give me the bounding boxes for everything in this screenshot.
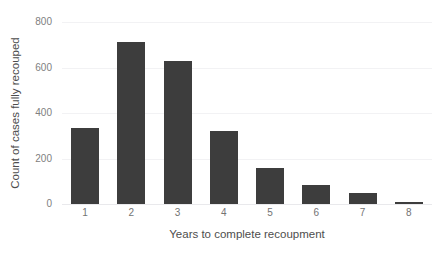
bar[interactable]	[71, 128, 99, 204]
plot-area: 0200400600800 12345678	[62, 22, 432, 204]
bar-series	[62, 22, 432, 204]
bar-slot	[247, 22, 293, 204]
bar-slot	[293, 22, 339, 204]
y-axis-tick-label: 400	[12, 108, 52, 118]
bar-slot	[155, 22, 201, 204]
y-axis-tick-label: 600	[12, 63, 52, 73]
x-axis-tick-label: 8	[389, 208, 429, 218]
bar-slot	[108, 22, 154, 204]
x-axis-tick-label: 1	[65, 208, 105, 218]
x-axis-tick-label: 6	[296, 208, 336, 218]
y-axis-tick-label: 800	[12, 17, 52, 27]
x-axis-title: Years to complete recoupment	[62, 228, 432, 240]
bar[interactable]	[349, 193, 377, 204]
x-axis-tick-label: 4	[204, 208, 244, 218]
y-axis-tick-label: 200	[12, 154, 52, 164]
bar[interactable]	[210, 131, 238, 204]
bar[interactable]	[302, 185, 330, 204]
bar[interactable]	[256, 168, 284, 204]
bar[interactable]	[395, 202, 423, 204]
bar-slot	[62, 22, 108, 204]
bar[interactable]	[117, 42, 145, 204]
x-axis-tick-label: 2	[111, 208, 151, 218]
x-axis-baseline	[62, 204, 432, 205]
bar-slot	[386, 22, 432, 204]
x-axis-tick-label: 3	[158, 208, 198, 218]
y-axis-tick-label: 0	[12, 199, 52, 209]
x-axis-tick-label: 5	[250, 208, 290, 218]
chart-title	[150, 0, 380, 2]
bar-slot	[201, 22, 247, 204]
bar-chart-figure: Count of cases fully recouped 0200400600…	[0, 0, 436, 256]
bar[interactable]	[164, 61, 192, 204]
bar-slot	[340, 22, 386, 204]
x-axis-tick-label: 7	[343, 208, 383, 218]
